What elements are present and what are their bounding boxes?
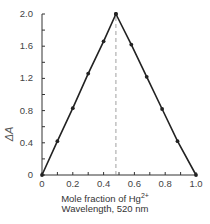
x-tick-label: 0.8: [153, 178, 177, 189]
data-point: [129, 43, 133, 47]
data-series: [40, 12, 198, 177]
x-tick-label: 0.2: [61, 178, 85, 189]
data-point: [56, 139, 60, 143]
data-point: [145, 75, 149, 79]
y-tick-label: 0.4: [11, 137, 33, 148]
series-line: [116, 14, 196, 175]
x-axis-sublabel: Wavelength, 520 nm: [0, 203, 210, 214]
x-tick-label: 0: [30, 178, 54, 189]
data-point: [40, 173, 44, 177]
axes: [42, 14, 196, 175]
y-tick-label: 1.6: [11, 40, 33, 51]
data-point: [114, 12, 118, 16]
data-point: [194, 173, 198, 177]
data-point: [86, 72, 90, 76]
y-tick-label: 1.2: [11, 72, 33, 83]
data-point: [71, 106, 75, 110]
x-axis-label-superscript: 2+: [141, 192, 149, 199]
x-tick-label: 0.6: [122, 178, 146, 189]
data-point: [176, 139, 180, 143]
data-point: [102, 39, 106, 43]
x-tick-label: 0.4: [92, 178, 116, 189]
x-tick-label: 1.0: [184, 178, 208, 189]
data-point: [160, 107, 164, 111]
y-tick-label: 2.0: [11, 8, 33, 19]
y-tick-label: 0.8: [11, 105, 33, 116]
series-line: [42, 14, 116, 175]
